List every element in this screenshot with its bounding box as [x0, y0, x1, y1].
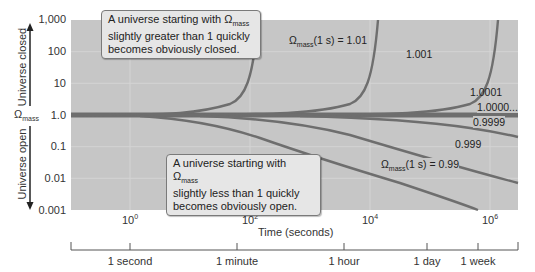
x-tick-10e6: 106: [470, 213, 510, 226]
timeline-1-hour: 1 hour: [309, 255, 379, 267]
x-tick-10e0: 100: [110, 213, 150, 226]
x-tick-10e4: 104: [350, 213, 390, 226]
curve-label-0.999: 0.999: [455, 138, 481, 150]
curve-label-0.9999: 0.9999: [473, 116, 505, 128]
callout-open: A universe starting with Ωmass slightly …: [166, 154, 321, 216]
y-tick-0.001: 0.001: [26, 204, 66, 216]
timeline-axis: [71, 242, 518, 250]
y-tick-100: 100: [26, 45, 66, 57]
y-tick-0.01: 0.01: [26, 172, 66, 184]
universe-open-label: Universe open: [16, 124, 28, 204]
timeline-1-second: 1 second: [95, 255, 165, 267]
timeline-1-minute: 1 minute: [202, 255, 272, 267]
y-tick-10: 10: [26, 77, 66, 89]
universe-closed-label: Universe closed: [16, 27, 28, 107]
curve-label-1.0000: 1.0000...: [477, 101, 518, 113]
timeline-1-week: 1 week: [443, 255, 513, 267]
x-axis-label: Time (seconds): [258, 226, 333, 238]
curve-label-1.0001: 1.0001: [470, 86, 502, 98]
callout-closed: A universe starting with Ωmass slightly …: [101, 10, 261, 59]
omega-mass-axis-label: Ωmass: [14, 108, 39, 122]
curve-label-1.01: Ωmass(1 s) = 1.01: [289, 34, 367, 48]
curve-label-0.99: Ωmass(1 s) = 0.99: [381, 158, 459, 172]
y-tick-1000: 1,000: [26, 13, 66, 25]
curve-label-1.001: 1.001: [406, 48, 432, 60]
y-tick-0.1: 0.1: [26, 140, 66, 152]
